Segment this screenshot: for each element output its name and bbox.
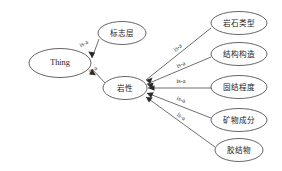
edge-line: [146, 28, 211, 80]
arrow-head-icon: [146, 97, 153, 103]
node-structure[interactable]: 结构构造: [211, 43, 267, 66]
node-label: 标志层: [110, 28, 134, 38]
arrow-head-icon: [88, 52, 95, 58]
node-label: Thing: [50, 58, 70, 67]
edge-label-is-a: is-a: [78, 38, 89, 48]
node-cement[interactable]: 胶结物: [215, 139, 263, 162]
node-marker-layer[interactable]: 标志层: [98, 22, 146, 45]
edge-label-is-a: is-a: [176, 94, 187, 104]
node-label: 矿物成分: [223, 115, 255, 125]
graph-canvas: is-a is-a is-a is-a is-a: [0, 0, 282, 171]
node-label: 固结程度: [223, 82, 255, 92]
node-label: 岩性: [117, 83, 133, 93]
edge-rocktype-to-lithology[interactable]: is-a: [146, 28, 211, 84]
node-thing[interactable]: Thing: [29, 49, 91, 78]
node-consolidation-degree[interactable]: 固结程度: [211, 76, 267, 99]
node-mineral-composition[interactable]: 矿物成分: [211, 109, 267, 132]
node-label: 胶结物: [227, 145, 251, 155]
node-rock-type[interactable]: 岩石类型: [211, 12, 267, 35]
edge-label-is-a: is-a: [177, 77, 186, 84]
node-group: Thing 标志层 岩性 岩石类型 结构构造 固结程度: [29, 12, 267, 162]
node-label: 结构构造: [223, 49, 255, 59]
node-label: 岩石类型: [223, 18, 255, 28]
ontology-diagram: is-a is-a is-a is-a is-a: [0, 0, 282, 171]
edge-label-is-a: is-a: [175, 59, 186, 69]
edge-label-is-a: is-a: [172, 41, 184, 52]
edge-line: [146, 97, 215, 147]
edge-cement-to-lithology[interactable]: is-a: [146, 97, 215, 147]
node-lithology[interactable]: 岩性: [103, 77, 147, 100]
